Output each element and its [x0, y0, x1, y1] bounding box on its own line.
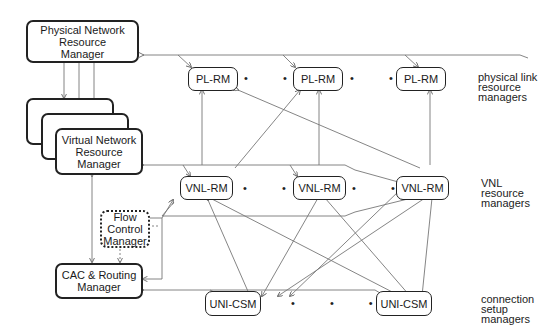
uni-csm-label: UNI-CSM — [209, 298, 256, 310]
vnl-rm-node: VNL-RM — [396, 176, 449, 200]
ellipsis: • • • — [291, 297, 389, 309]
pl-rm-node: PL-RM — [396, 67, 446, 91]
legend-line: managers — [481, 314, 534, 324]
pl-rm-node: PL-RM — [293, 67, 343, 91]
legend-line: managers — [481, 198, 530, 208]
virtual-network-resource-manager-label: Virtual Network Resource Manager — [59, 134, 139, 170]
pl-rm-label: PL-RM — [196, 73, 230, 85]
vnl-rm-label: VNL-RM — [401, 182, 443, 194]
flow-control-manager: Flow Control Manager — [100, 210, 150, 248]
cac-routing-manager: CAC & Routing Manager — [55, 263, 143, 299]
physical-network-resource-manager: Physical Network Resource Manager — [26, 20, 139, 63]
virtual-network-resource-manager: Virtual Network Resource Manager — [55, 128, 143, 175]
pl-rm-label: PL-RM — [301, 73, 335, 85]
vnl-rm-node: VNL-RM — [293, 176, 346, 200]
legend-line: managers — [478, 92, 537, 102]
vnl-rm-label: VNL-RM — [298, 182, 340, 194]
vnl-legend: VNL resource managers — [481, 178, 530, 208]
uni-csm-node: UNI-CSM — [205, 291, 261, 316]
pl-rm-label: PL-RM — [404, 73, 438, 85]
flow-control-manager-label: Flow Control Manager — [102, 211, 148, 247]
pl-legend: physical link resource managers — [478, 72, 537, 102]
uni-csm-node: UNI-CSM — [376, 291, 432, 316]
uni-csm-label: UNI-CSM — [380, 298, 427, 310]
physical-network-resource-manager-label: Physical Network Resource Manager — [38, 24, 128, 60]
pl-rm-node: PL-RM — [188, 67, 238, 91]
vnl-rm-label: VNL-RM — [185, 182, 227, 194]
cac-routing-manager-label: CAC & Routing Manager — [59, 269, 139, 293]
vnl-rm-node: VNL-RM — [180, 176, 233, 200]
uni-legend: connection setup managers — [481, 294, 534, 324]
